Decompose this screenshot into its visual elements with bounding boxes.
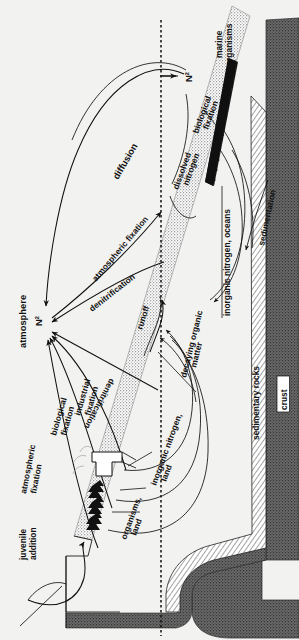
label-atmosphere: atmosphere [17,295,28,348]
label-crust: crust [277,376,290,412]
nitrogen-cycle-figure: crust sedimentary rocks [0,0,299,640]
svg-text:sedimentary rocks: sedimentary rocks [251,366,261,440]
svg-text:addition: addition [28,527,38,560]
svg-text:atmosphere: atmosphere [17,295,28,348]
svg-text:juvenile: juvenile [18,528,28,561]
svg-text:marine: marine [214,30,224,58]
svg-text:crust: crust [279,389,289,410]
label-juvenile-addition: juvenile addition [18,527,38,561]
svg-text:organisms: organisms [224,23,234,66]
svg-text:inorganic nitrogen, oceans: inorganic nitrogen, oceans [222,209,232,316]
label-sedimentary-rocks: sedimentary rocks [251,366,261,440]
